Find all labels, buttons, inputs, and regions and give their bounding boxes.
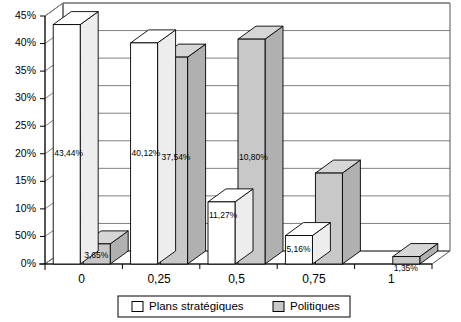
y-axis-tick-label: 30% xyxy=(15,91,36,103)
x-axis-tick-label: 0,5 xyxy=(228,272,245,286)
y-axis-tick-label: 10% xyxy=(15,202,36,214)
y-axis-tick-label: 45% xyxy=(15,9,36,21)
x-axis-tick-label: 1 xyxy=(388,272,395,286)
y-axis-tick-label: 0% xyxy=(21,257,36,269)
data-label-plans-3: 5,16% xyxy=(286,244,311,254)
bar-plans-strategiques-2 xyxy=(208,189,253,264)
y-axis-tick-label: 15% xyxy=(15,174,36,186)
y-axis-tick-label: 20% xyxy=(15,147,36,159)
data-label-plans-1: 40,12% xyxy=(132,148,161,158)
data-label-politiques-2: 10,80% xyxy=(239,152,268,162)
bar-plans-strategiques-1 xyxy=(131,30,176,264)
data-label-politiques-1: 37,54% xyxy=(162,152,191,162)
y-axis-tick-label: 25% xyxy=(15,119,36,131)
legend-item-plans-strategiques[interactable]: Plans stratégiques xyxy=(132,300,244,312)
x-axis-labels: 00,250,50,751 xyxy=(78,272,395,286)
bar-plans-strategiques-0 xyxy=(53,12,98,264)
data-label-politiques-0: 3,65% xyxy=(84,250,109,260)
y-axis-labels: 45%40%35%30%25%20%15%10%50%0% xyxy=(15,9,36,269)
data-label-politiques-4: 1,35% xyxy=(394,263,419,273)
legend-swatch xyxy=(132,302,143,312)
x-axis-tick-label: 0,75 xyxy=(302,272,326,286)
chart-container: 43,44%3,65%40,12%37,54%11,27%10,80%5,16%… xyxy=(0,0,461,322)
data-label-plans-2: 11,27% xyxy=(209,210,238,220)
y-axis-tick-label: 35% xyxy=(15,64,36,76)
legend-label: Politiques xyxy=(290,300,340,312)
chart-legend: Plans stratégiquesPolitiques xyxy=(118,296,350,317)
chart-bars xyxy=(53,12,438,264)
y-axis-tick-label: 40% xyxy=(15,36,36,48)
data-label-plans-0: 43,44% xyxy=(54,148,83,158)
legend-label: Plans stratégiques xyxy=(149,300,244,312)
x-axis-tick-label: 0 xyxy=(78,272,85,286)
bar-chart: 43,44%3,65%40,12%37,54%11,27%10,80%5,16%… xyxy=(0,0,461,322)
x-axis-tick-label: 0,25 xyxy=(147,272,171,286)
legend-item-politiques[interactable]: Politiques xyxy=(273,300,340,312)
bar-politiques-4 xyxy=(393,244,438,264)
legend-swatch xyxy=(273,302,284,312)
y-axis-tick-label: 50% xyxy=(15,229,36,241)
